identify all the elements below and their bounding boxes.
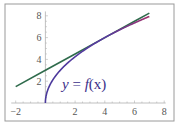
x-tick-label: 4 [102, 106, 107, 117]
plot-frame [5, 4, 174, 121]
y-tick-label: 6 [36, 32, 41, 43]
x-tick-label: −2 [10, 106, 21, 117]
chart: −224682468 y = f(x) [0, 0, 178, 127]
y-tick-label: 2 [36, 76, 41, 87]
x-tick-label: 8 [162, 106, 167, 117]
curve-label: y = f(x) [60, 76, 106, 93]
y-tick-label: 8 [36, 10, 41, 21]
curve-label-arg: (x) [89, 76, 107, 93]
curve-label-equals: = [69, 76, 85, 92]
plot-area: −224682468 y = f(x) [0, 0, 178, 127]
x-tick-label: 6 [132, 106, 137, 117]
y-tick-label: 4 [36, 54, 41, 65]
curve-label-y: y [60, 76, 69, 92]
x-tick-label: 2 [73, 106, 78, 117]
